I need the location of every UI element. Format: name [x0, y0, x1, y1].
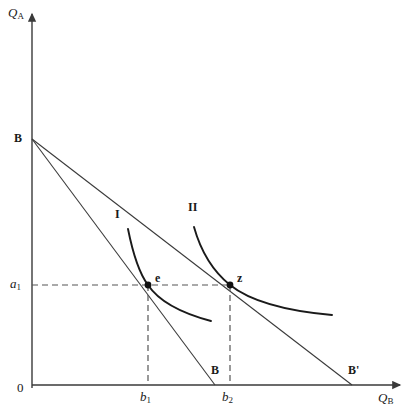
- y-axis-label-text: Q: [8, 5, 17, 20]
- x-tick-b2: b2: [222, 390, 233, 405]
- y-axis-label: QA: [8, 6, 24, 21]
- x-axis-label-sub: B: [387, 396, 393, 406]
- indifference-curve-figure: QA QB 0 a1 b1 b2 B B B' e z I II: [0, 0, 416, 413]
- x-axis-label: QB: [378, 391, 393, 406]
- y-tick-a1-sub: 1: [17, 282, 22, 292]
- outer-budget-x-intercept-label: B': [348, 364, 359, 376]
- point-z-label: z: [237, 272, 242, 284]
- point-e-marker: [145, 282, 152, 289]
- y-axis-label-sub: A: [17, 11, 24, 21]
- inner-budget-line: [32, 139, 215, 385]
- origin-label: 0: [17, 381, 24, 394]
- x-tick-b2-sub: 2: [229, 395, 234, 405]
- budget-y-intercept-label: B: [14, 132, 22, 144]
- x-tick-b1: b1: [140, 390, 151, 405]
- x-tick-b1-sub: 1: [147, 395, 152, 405]
- curve-2-label: II: [188, 201, 197, 213]
- point-z-marker: [227, 282, 234, 289]
- x-axis-label-text: Q: [378, 390, 387, 405]
- indifference-curve-2: [194, 227, 332, 315]
- point-e-label: e: [155, 272, 160, 284]
- outer-budget-line: [32, 139, 352, 385]
- y-tick-a1: a1: [10, 277, 21, 292]
- curve-1-label: I: [115, 208, 120, 220]
- inner-budget-x-intercept-label: B: [211, 364, 219, 376]
- figure-canvas: [0, 0, 416, 413]
